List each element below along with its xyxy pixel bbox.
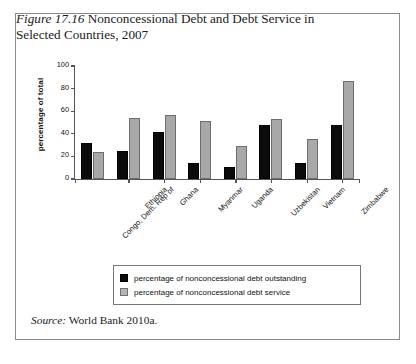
x-label-myanmar: Myanmar <box>216 185 245 214</box>
legend-label-outstanding: percentage of nonconcessional debt outst… <box>134 274 306 283</box>
bar-outstanding <box>224 167 235 179</box>
x-label-congo-dem-rep-of: Congo, Dem. Rep of <box>120 185 175 240</box>
bar-service <box>343 81 354 179</box>
bar-outstanding <box>188 163 199 179</box>
bar-group <box>111 66 147 179</box>
x-label-uganda: Uganda <box>250 185 275 210</box>
legend-item-service: percentage of nonconcessional debt servi… <box>120 285 353 299</box>
legend-item-outstanding: percentage of nonconcessional debt outst… <box>120 271 353 285</box>
bar-service <box>200 121 211 179</box>
source-label: Source: <box>31 314 66 326</box>
y-tick-label: 40 <box>61 128 69 137</box>
y-tick-label: 100 <box>57 60 69 69</box>
figure-title: Figure 17.16 Nonconcessional Debt and De… <box>16 11 361 42</box>
source-text: World Bank 2010a. <box>69 314 158 326</box>
bar-group <box>218 66 254 179</box>
bar-outstanding <box>81 143 92 179</box>
y-axis-label: percentage of total <box>36 60 45 170</box>
bar-group <box>182 66 218 179</box>
bar-group <box>253 66 289 179</box>
source-note: Source: World Bank 2010a. <box>31 314 157 326</box>
legend-label-service: percentage of nonconcessional debt servi… <box>134 288 290 297</box>
bar-chart: percentage of total 020406080100 Congo, … <box>0 52 385 257</box>
bar-service <box>271 119 282 179</box>
x-label-ghana: Ghana <box>178 185 200 207</box>
legend-swatch-gray-icon <box>120 288 128 296</box>
bar-service <box>236 146 247 179</box>
bar-outstanding <box>295 163 306 179</box>
bar-outstanding <box>153 132 164 179</box>
legend-swatch-black-icon <box>120 274 128 282</box>
bar-service <box>165 115 176 179</box>
bar-group <box>289 66 325 179</box>
bar-group <box>146 66 182 179</box>
x-label-uzbekistan: Uzbekistan <box>289 185 322 218</box>
bar-group <box>324 66 360 179</box>
figure-number: Figure 17.16 <box>16 11 84 26</box>
bar-service <box>307 139 318 179</box>
bar-group <box>75 66 111 179</box>
y-tick-label: 80 <box>61 83 69 92</box>
bar-outstanding <box>331 125 342 179</box>
y-tick-label: 60 <box>61 105 69 114</box>
chart-legend: percentage of nonconcessional debt outst… <box>113 265 361 305</box>
y-tick-label: 20 <box>61 150 69 159</box>
plot-area: 020406080100 <box>74 66 360 180</box>
bar-outstanding <box>259 125 270 179</box>
y-tick-label: 0 <box>65 173 69 182</box>
bar-outstanding <box>117 151 128 179</box>
bar-groups <box>75 66 360 179</box>
x-label-vietnam: Vietnam <box>322 185 348 211</box>
x-axis-labels: Congo, Dem. Rep ofEthiopiaGhanaMyanmarUg… <box>74 183 359 245</box>
bar-service <box>129 118 140 179</box>
bar-service <box>93 152 104 179</box>
